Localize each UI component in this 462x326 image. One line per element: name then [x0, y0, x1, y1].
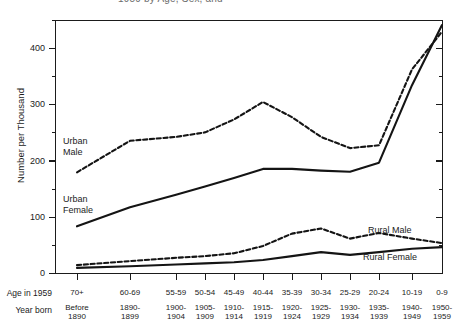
series-urban-male-line [77, 32, 442, 173]
series-label-urban-female-line2: Female [63, 205, 93, 215]
series-label-urban-male-line1: Urban [63, 136, 88, 146]
y-right-ticks [436, 49, 443, 274]
series-label-urban-male: Urban Male [63, 136, 88, 157]
chart-figure: 1959 by Age, Sex, and [0, 0, 462, 326]
y-major-ticks [49, 49, 56, 274]
x-row-header-year: Year born [2, 305, 52, 315]
x-category-age-0-9: 0-9 [418, 288, 462, 297]
series-label-rural-male: Rural Male [368, 225, 412, 236]
series-label-urban-female: Urban Female [63, 194, 93, 215]
y-tick-label-0: 0 [19, 268, 45, 278]
series-label-urban-female-line1: Urban [63, 194, 88, 204]
series-urban-female-line [77, 25, 442, 226]
x-ticks [78, 274, 413, 281]
x-category-yearborn-60-69: 1890-1899 [106, 303, 154, 321]
series-label-rural-female: Rural Female [363, 252, 417, 263]
x-category-age-60-69: 60-69 [106, 288, 154, 297]
chart-canvas [0, 0, 462, 326]
y-tick-label-100: 100 [19, 212, 45, 222]
y-minor-ticks [52, 21, 56, 246]
x-row-header-age: Age in 1959 [2, 288, 52, 298]
x-category-age-70+: 70+ [53, 288, 101, 297]
x-category-yearborn-70+: Before1890 [53, 303, 101, 321]
series-label-urban-male-line2: Male [63, 147, 83, 157]
y-tick-label-400: 400 [19, 43, 45, 53]
y-axis-label: Number per Thousand [15, 81, 26, 191]
x-category-yearborn-0-9: 1950-1959 [418, 303, 462, 321]
